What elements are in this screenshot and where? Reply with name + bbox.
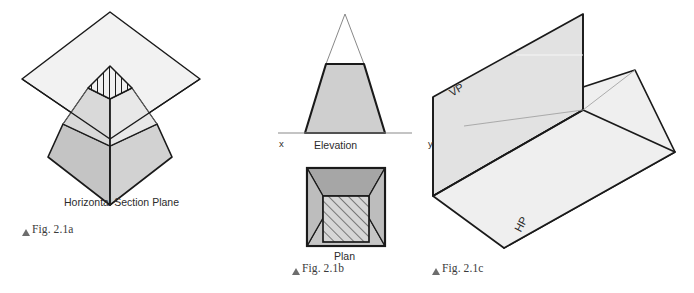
figure-2-1a-caption: Fig. 2.1a (32, 223, 73, 235)
caption-marker-icon (22, 229, 30, 236)
caption-marker-icon (432, 268, 440, 275)
elevation-frustum (305, 64, 385, 133)
figure-sheet: Horizontal Section Plane Elevation Plan … (0, 0, 694, 293)
elevation-apex-triangle (326, 14, 364, 64)
caption-marker-icon (292, 268, 300, 275)
plan-cut-section-hatched (323, 196, 369, 242)
axis-y-label: y (428, 138, 433, 149)
elevation-label: Elevation (314, 139, 357, 151)
figure-2-1c-drawing (420, 0, 694, 293)
plan-label: Plan (334, 250, 355, 262)
axis-x-label: x (279, 138, 284, 149)
figure-2-1b-caption: Fig. 2.1b (302, 262, 344, 274)
figure-2-1c-caption: Fig. 2.1c (442, 262, 483, 274)
figure-2-1a-drawing (0, 0, 270, 293)
horizontal-section-plane-label: Horizontal Section Plane (64, 196, 179, 208)
